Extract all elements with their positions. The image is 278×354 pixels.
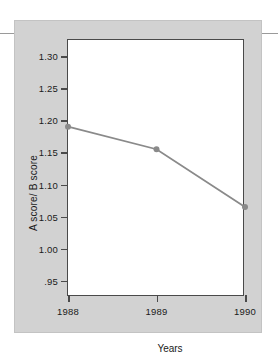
series-line: [68, 127, 245, 207]
y-axis-tick: [61, 217, 68, 219]
y-axis-tick: [61, 120, 68, 122]
data-point-marker: [242, 204, 248, 210]
figure-root: 1.301.251.201.151.101.051.00.95198819891…: [0, 0, 278, 354]
data-point-marker: [65, 124, 71, 130]
data-series-line: [68, 40, 245, 297]
y-axis-tick-label: 1.10: [39, 179, 58, 190]
y-axis-title: A score/ B score: [28, 155, 39, 231]
x-axis-title: Years: [157, 343, 182, 354]
x-axis-tick-label: 1989: [146, 306, 168, 317]
y-axis-tick-label: 1.25: [39, 83, 58, 94]
plot-area: 1.301.251.201.151.101.051.00.95198819891…: [67, 39, 244, 296]
data-point-marker: [154, 146, 160, 152]
x-axis-tick: [245, 295, 247, 302]
y-axis-tick-label: 1.20: [39, 115, 58, 126]
y-axis-tick-label: 1.30: [39, 51, 58, 62]
y-axis-tick-label: 1.00: [39, 243, 58, 254]
y-axis-tick: [61, 249, 68, 251]
x-axis-tick-label: 1990: [234, 306, 256, 317]
x-axis-tick: [157, 295, 159, 302]
y-axis-tick: [61, 152, 68, 154]
y-axis-tick: [61, 281, 68, 283]
y-axis-tick: [61, 56, 68, 58]
y-axis-tick-label: 1.05: [39, 211, 58, 222]
y-axis-tick: [61, 88, 68, 90]
x-axis-tick-label: 1988: [57, 306, 79, 317]
figure-panel: 1.301.251.201.151.101.051.00.95198819891…: [14, 20, 262, 333]
y-axis-tick-label: .95: [44, 275, 58, 286]
y-axis-tick-label: 1.15: [39, 147, 58, 158]
y-axis-tick: [61, 185, 68, 187]
x-axis-tick: [68, 295, 70, 302]
